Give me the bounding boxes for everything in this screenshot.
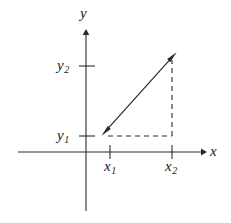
x-tick-label-x2-base: x: [165, 158, 172, 174]
x-axis-label: x: [210, 144, 217, 159]
y-axis-label: y: [80, 6, 87, 21]
y-tick-label-y1: y1: [57, 128, 69, 145]
x-axis-arrowhead-icon: [201, 149, 207, 156]
y-tick-label-y1-base: y: [57, 127, 64, 143]
vector-shaft: [106, 58, 171, 131]
y-axis-arrowhead-icon: [83, 29, 90, 35]
y-tick-label-y2-base: y: [57, 57, 64, 73]
x-tick-label-x2: x2: [165, 159, 177, 176]
y-tick-label-y2-subscript: 2: [64, 64, 69, 75]
x-tick-label-x1-subscript: 1: [111, 165, 116, 176]
x-tick-label-x1-base: x: [104, 158, 111, 174]
diagram-canvas: [0, 0, 231, 223]
vector-diagram-figure: y x y2 y1 x1 x2: [0, 0, 231, 223]
x-tick-label-x1: x1: [104, 159, 116, 176]
y-tick-label-y1-subscript: 1: [64, 134, 69, 145]
y-tick-label-y2: y2: [57, 58, 69, 75]
x-tick-label-x2-subscript: 2: [172, 165, 177, 176]
